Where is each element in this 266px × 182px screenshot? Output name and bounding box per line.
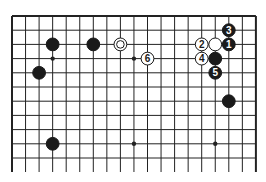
go-board-diagram: 312456 (0, 0, 266, 182)
white-stone (114, 38, 127, 51)
black-stone: 1 (222, 38, 235, 51)
white-stone: 2 (195, 38, 208, 51)
white-stone: 6 (141, 52, 154, 65)
black-stone (46, 38, 59, 51)
star-point (213, 142, 217, 146)
white-stone: 4 (195, 52, 208, 65)
move-number: 1 (226, 39, 232, 50)
black-stone (87, 38, 100, 51)
star-point (50, 56, 54, 60)
move-number: 4 (199, 53, 205, 64)
black-stone: 5 (209, 66, 222, 79)
white-stone (209, 38, 222, 51)
black-stone (209, 52, 222, 65)
black-stone: 3 (222, 24, 235, 37)
black-stone (222, 95, 235, 108)
black-stone (33, 66, 46, 79)
move-number: 6 (145, 53, 151, 64)
move-number: 5 (212, 67, 218, 78)
star-point (132, 56, 136, 60)
move-number: 2 (199, 39, 205, 50)
black-stone (46, 137, 59, 150)
star-point (132, 142, 136, 146)
move-number: 3 (226, 25, 232, 36)
